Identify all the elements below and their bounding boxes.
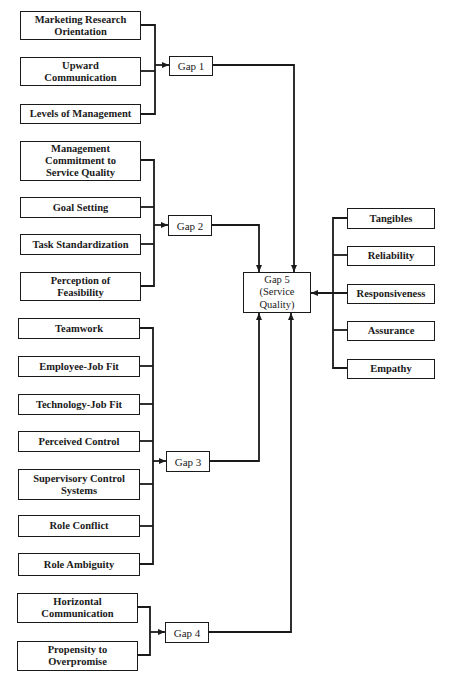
- factor-levels-of-management: Levels of Management: [20, 104, 141, 124]
- service-quality-gap-diagram: Marketing Research Orientation Upward Co…: [0, 0, 452, 684]
- factor-management-commitment: Management Commitment to Service Quality: [20, 141, 141, 181]
- gap-2-box: Gap 2: [168, 215, 212, 236]
- factor-supervisory-control-systems: Supervisory Control Systems: [18, 469, 140, 500]
- factor-marketing-research-orientation: Marketing Research Orientation: [20, 11, 141, 40]
- dimension-assurance: Assurance: [347, 321, 435, 341]
- gap-1-box: Gap 1: [169, 56, 213, 76]
- dimension-empathy: Empathy: [347, 359, 435, 379]
- connector-lines: [0, 0, 452, 684]
- factor-role-conflict: Role Conflict: [18, 515, 140, 537]
- dimension-reliability: Reliability: [347, 246, 435, 266]
- factor-goal-setting: Goal Setting: [20, 197, 141, 218]
- gap-3-box: Gap 3: [166, 451, 210, 472]
- factor-perception-of-feasibility: Perception of Feasibility: [20, 272, 141, 301]
- dimension-responsiveness: Responsiveness: [347, 284, 435, 304]
- factor-propensity-to-overpromise: Propensity to Overpromise: [17, 641, 138, 671]
- factor-perceived-control: Perceived Control: [18, 431, 140, 452]
- dimension-tangibles: Tangibles: [347, 208, 435, 229]
- factor-teamwork: Teamwork: [18, 318, 140, 339]
- factor-role-ambiguity: Role Ambiguity: [18, 553, 140, 576]
- factor-upward-communication: Upward Communication: [20, 57, 141, 86]
- factor-horizontal-communication: Horizontal Communication: [17, 593, 138, 623]
- gap-5-service-quality-box: Gap 5 (Service Quality): [243, 272, 311, 313]
- factor-employee-job-fit: Employee-Job Fit: [18, 356, 140, 377]
- factor-technology-job-fit: Technology-Job Fit: [18, 394, 140, 415]
- factor-task-standardization: Task Standardization: [20, 234, 141, 255]
- gap-4-box: Gap 4: [165, 622, 209, 643]
